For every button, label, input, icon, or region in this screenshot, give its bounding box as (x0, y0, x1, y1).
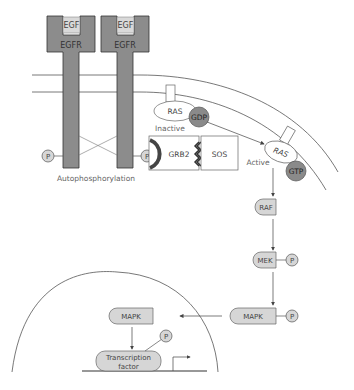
mek-label: MEK (257, 257, 272, 265)
mek-phosphate-label: P (290, 257, 294, 265)
grb2-label: GRB2 (169, 150, 190, 159)
tf-label-line2: factor (118, 363, 139, 371)
tf-label-line1: Transcription (105, 354, 151, 362)
gdp-label: GDP (191, 113, 208, 122)
egf-label-1: EGF (64, 21, 80, 30)
egf-label-2: EGF (118, 21, 134, 30)
phosphate-left-label: P (46, 153, 50, 161)
pathway-diagram: EGF EGFR EGF EGFR P P Autophosphorylatio… (0, 0, 354, 390)
inactive-label: Inactive (155, 124, 185, 133)
gtp-label: GTP (289, 167, 304, 176)
phosphate-right-label: P (145, 153, 149, 161)
sos-label: SOS (212, 150, 228, 159)
autophosphorylation-cross (79, 136, 117, 155)
egfr-label-1: EGFR (60, 41, 82, 50)
autophosphorylation-label: Autophosphorylation (57, 174, 135, 183)
mapk-nucleus-label: MAPK (121, 313, 141, 321)
transcription-start-arrow (173, 357, 190, 371)
ras-inactive-label: RAS (168, 107, 183, 116)
mapk-phosphate-label: P (290, 313, 294, 321)
tf-phosphate-label: P (164, 333, 168, 341)
mapk-cytoplasm-label: MAPK (243, 313, 263, 321)
raf-label: RAF (259, 204, 272, 212)
active-label: Active (246, 158, 270, 167)
egfr-label-2: EGFR (114, 41, 136, 50)
ras-anchor-inactive (166, 85, 175, 102)
